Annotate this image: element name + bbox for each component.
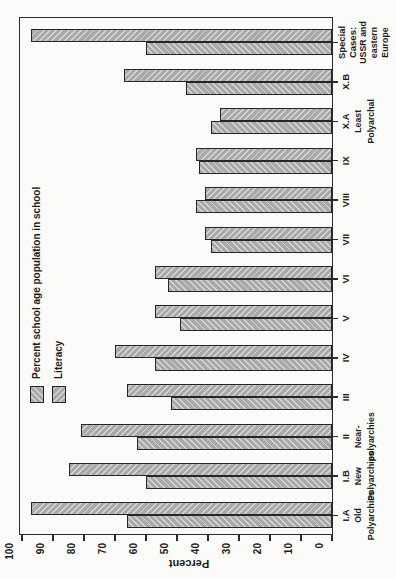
bar-school-VII [211, 240, 332, 253]
category-label-XB: X.B [339, 74, 352, 90]
category-label-block-VI: VI [339, 274, 352, 283]
category-tick-VI [333, 278, 339, 280]
category-label-SpecialCases: Cases: [347, 21, 358, 64]
category-group-label-II: polyarchies [365, 412, 378, 461]
legend-item-literacy: Literacy [51, 187, 66, 403]
category-tick-V [333, 318, 339, 320]
bar-school-SpecialCases [146, 42, 332, 55]
percent-tick-40 [207, 535, 209, 541]
bar-literacy-V [155, 305, 332, 318]
bar-school-XB [186, 82, 332, 95]
percent-tick-100 [21, 535, 23, 541]
percent-tick-label-10: 10 [284, 543, 294, 577]
category-label-IV: IV [339, 353, 352, 362]
percent-tick-label-80: 80 [67, 543, 77, 577]
bar-literacy-SpecialCases [31, 29, 332, 42]
category-label-VI: VI [339, 274, 352, 283]
bar-school-IB [146, 476, 332, 489]
rotated-chart: Percent 1009080706050403020100 I.AOldPol… [0, 0, 396, 578]
percent-tick-60 [145, 535, 147, 541]
legend-item-school: Percent school age population in school [29, 187, 44, 403]
category-label-VIII: VIII [339, 193, 352, 207]
legend-swatch-school [30, 386, 44, 403]
percent-tick-label-50: 50 [160, 543, 170, 577]
legend-swatch-literacy [52, 386, 66, 403]
category-label-block-XA: X.ALeastPolyarchal [339, 99, 378, 144]
category-tick-IA [333, 515, 339, 517]
category-label-IX: IX [339, 156, 352, 165]
percent-tick-90 [52, 535, 54, 541]
scanned-chart-page: Percent 1009080706050403020100 I.AOldPol… [0, 0, 396, 578]
category-label-block-VII: VII [339, 234, 352, 246]
percent-tick-label-30: 30 [222, 543, 232, 577]
percent-tick-0 [331, 535, 333, 541]
category-tick-XB [333, 81, 339, 83]
percent-tick-label-70: 70 [98, 543, 108, 577]
percent-tick-label-60: 60 [129, 543, 139, 577]
bar-school-VIII [196, 200, 332, 213]
category-label-block-IX: IX [339, 156, 352, 165]
category-label-block-IV: IV [339, 353, 352, 362]
bar-school-VI [168, 279, 332, 292]
category-tick-VII [333, 239, 339, 241]
bar-literacy-IB [69, 463, 333, 476]
category-label-block-XB: X.B [339, 74, 352, 90]
category-group-label-SpecialCases: Europe [380, 21, 391, 64]
bar-school-V [180, 318, 332, 331]
percent-tick-80 [83, 535, 85, 541]
bar-school-II [137, 437, 332, 450]
bar-literacy-VII [205, 227, 332, 240]
category-tick-XA [333, 121, 339, 123]
bar-literacy-VI [155, 266, 332, 279]
category-group-label-SpecialCases: USSR and [358, 21, 369, 64]
percent-tick-10 [300, 535, 302, 541]
category-tick-IB [333, 475, 339, 477]
bar-literacy-XA [220, 108, 332, 121]
category-tick-IV [333, 357, 339, 359]
bar-literacy-IA [31, 503, 332, 516]
percent-axis-label: Percent [169, 558, 209, 570]
category-group-label-SpecialCases: eastern [369, 21, 380, 64]
legend-label-literacy: Literacy [53, 341, 64, 379]
category-label-block-VIII: VIII [339, 193, 352, 207]
category-label-V: V [339, 315, 352, 321]
category-tick-II [333, 436, 339, 438]
percent-tick-label-40: 40 [191, 543, 201, 577]
bar-literacy-VIII [205, 187, 332, 200]
percent-tick-30 [238, 535, 240, 541]
category-tick-IX [333, 160, 339, 162]
category-label-II: II [339, 412, 352, 461]
percent-tick-label-20: 20 [253, 543, 263, 577]
category-label-VII: VII [339, 234, 352, 246]
bar-literacy-IV [115, 345, 332, 358]
category-label-SpecialCases: Special [336, 21, 347, 64]
percent-tick-label-0: 0 [315, 543, 325, 577]
category-label-block-SpecialCases: SpecialCases:USSR andeasternEurope [336, 21, 391, 64]
bar-literacy-IX [196, 148, 332, 161]
category-label-block-III: III [339, 393, 352, 401]
bar-literacy-XB [124, 69, 332, 82]
bar-school-III [171, 397, 332, 410]
bar-literacy-III [127, 384, 332, 397]
bar-school-XA [211, 121, 332, 134]
category-label-block-V: V [339, 315, 352, 321]
category-tick-VIII [333, 199, 339, 201]
category-label-XA: X.A [339, 99, 352, 144]
percent-tick-70 [114, 535, 116, 541]
legend: Percent school age population in school … [29, 187, 73, 403]
percent-tick-label-90: 90 [36, 543, 46, 577]
category-group-label-II: Near- [352, 412, 365, 461]
category-tick-III [333, 397, 339, 399]
bar-school-IX [199, 161, 332, 174]
percent-tick-label-100: 100 [5, 543, 15, 577]
category-label-block-II: IINear-polyarchies [339, 412, 378, 461]
bar-school-IA [127, 516, 332, 529]
legend-label-school: Percent school age population in school [31, 187, 42, 379]
percent-tick-50 [176, 535, 178, 541]
category-group-label-XA: Least [352, 99, 365, 144]
bar-literacy-II [81, 424, 332, 437]
percent-tick-20 [269, 535, 271, 541]
bar-school-IV [155, 358, 332, 371]
category-group-label-XA: Polyarchal [365, 99, 378, 144]
category-label-III: III [339, 393, 352, 401]
